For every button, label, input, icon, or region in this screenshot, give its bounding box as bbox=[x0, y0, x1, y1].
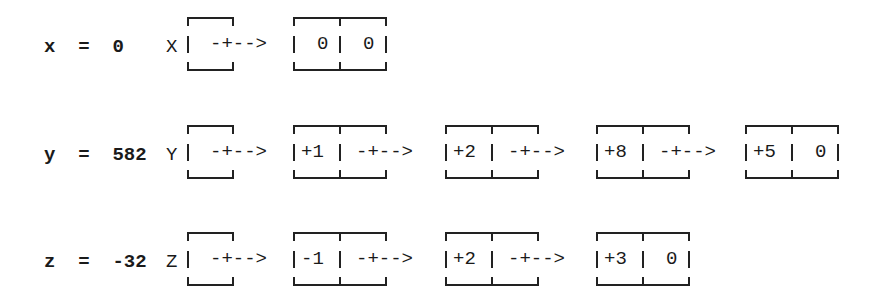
node-digit: +5 bbox=[753, 141, 776, 163]
arrow-z-2: -+--> bbox=[508, 248, 565, 270]
arrow-y-3: -+--> bbox=[659, 141, 716, 163]
row-x: x = 0 X -+--> 0 0 bbox=[0, 17, 878, 77]
assignment-y: y = 582 bbox=[44, 144, 147, 166]
node-z-3: +3 0 bbox=[596, 232, 690, 286]
arrow-z-0: -+--> bbox=[210, 248, 267, 270]
node-digit: -1 bbox=[301, 248, 324, 270]
arrow-y-0: -+--> bbox=[210, 141, 267, 163]
node-digit: +8 bbox=[604, 141, 627, 163]
arrow-x-0: -+--> bbox=[210, 33, 267, 55]
node-link-null: 0 bbox=[363, 33, 374, 55]
node-link-null: 0 bbox=[666, 248, 677, 270]
arrow-y-2: -+--> bbox=[508, 141, 565, 163]
node-link-null: 0 bbox=[815, 141, 826, 163]
pointer-label-x: X bbox=[166, 36, 177, 58]
node-y-4: +5 0 bbox=[745, 125, 839, 179]
arrow-z-1: -+--> bbox=[356, 248, 413, 270]
node-digit: +1 bbox=[301, 141, 324, 163]
row-y: y = 582 Y -+--> +1 -+--> +2 -+--> +8 -+-… bbox=[0, 125, 878, 185]
node-digit: +2 bbox=[453, 248, 476, 270]
node-digit: 0 bbox=[317, 33, 328, 55]
pointer-label-z: Z bbox=[166, 251, 177, 273]
assignment-x: x = 0 bbox=[44, 36, 124, 58]
pointer-label-y: Y bbox=[166, 144, 177, 166]
assignment-z: z = -32 bbox=[44, 251, 147, 273]
node-x-1: 0 0 bbox=[293, 17, 387, 71]
arrow-y-1: -+--> bbox=[356, 141, 413, 163]
node-digit: +3 bbox=[604, 248, 627, 270]
row-z: z = -32 Z -+--> -1 -+--> +2 -+--> +3 0 bbox=[0, 232, 878, 292]
node-digit: +2 bbox=[453, 141, 476, 163]
